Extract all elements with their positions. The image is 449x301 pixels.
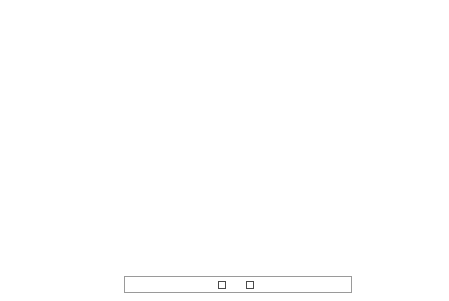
bar-chart xyxy=(0,0,449,301)
legend-entry-high-income xyxy=(246,281,258,289)
x-axis-category-labels xyxy=(0,234,449,280)
legend-swatch-light xyxy=(218,281,226,289)
chart-legend xyxy=(124,276,352,293)
legend-swatch-dark xyxy=(246,281,254,289)
legend-entry-low-income xyxy=(218,281,230,289)
